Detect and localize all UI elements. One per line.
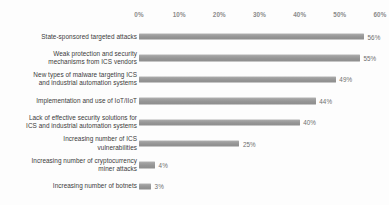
bar-track: 40%: [139, 119, 316, 126]
bar-value-label: 49%: [339, 76, 352, 83]
bar-row: Increasing number of cryptocurrency mine…: [0, 154, 389, 175]
bar-row: Increasing number of botnets3%: [0, 176, 389, 197]
bar-value-label: 40%: [303, 119, 316, 126]
bar-value-label: 4%: [159, 162, 168, 169]
bar-row: New types of malware targeting ICS and i…: [0, 69, 389, 90]
bar: [139, 98, 316, 104]
bar-track: 44%: [139, 97, 332, 104]
category-label: Increasing number of ICS vulnerabilities: [4, 135, 137, 151]
bar-row: Lack of effective security solutions for…: [0, 112, 389, 133]
x-axis-tick-30: 30%: [253, 11, 266, 18]
bar: [139, 140, 239, 146]
bar: [139, 33, 364, 39]
bar-row: Implementation and use of IoT/IIoT44%: [0, 90, 389, 111]
bar: [139, 76, 336, 82]
bar-track: 25%: [139, 140, 256, 147]
bar-row: Weak protection and security mechanisms …: [0, 47, 389, 68]
bar-rows: State-sponsored targeted attacks56%Weak …: [0, 26, 389, 197]
bar: [139, 183, 151, 189]
x-axis-tick-40: 40%: [293, 11, 306, 18]
category-label: Increasing number of cryptocurrency mine…: [4, 157, 137, 173]
category-label: Weak protection and security mechanisms …: [4, 50, 137, 66]
category-label: Lack of effective security solutions for…: [4, 114, 137, 130]
bar-track: 4%: [139, 162, 168, 169]
bar-value-label: 44%: [319, 97, 332, 104]
category-label: Increasing number of botnets: [4, 182, 137, 190]
x-axis-tick-0: 0%: [134, 11, 143, 18]
x-axis-tick-60: 60%: [373, 11, 386, 18]
bar-value-label: 25%: [243, 140, 256, 147]
bar-track: 49%: [139, 76, 352, 83]
x-axis-tick-20: 20%: [213, 11, 226, 18]
bar: [139, 119, 300, 125]
x-axis-tick-50: 50%: [333, 11, 346, 18]
bar-track: 55%: [139, 55, 376, 62]
horizontal-bar-chart: 0%10%20%30%40%50%60% State-sponsored tar…: [0, 0, 389, 205]
bar-track: 56%: [139, 33, 380, 40]
category-label: State-sponsored targeted attacks: [4, 33, 137, 41]
bar-row: Increasing number of ICS vulnerabilities…: [0, 133, 389, 154]
category-label: Implementation and use of IoT/IIoT: [4, 97, 137, 105]
bar-row: State-sponsored targeted attacks56%: [0, 26, 389, 47]
x-axis-ticks: 0%10%20%30%40%50%60%: [0, 0, 389, 26]
bar-track: 3%: [139, 183, 164, 190]
category-label: New types of malware targeting ICS and i…: [4, 71, 137, 87]
bar-value-label: 55%: [363, 55, 376, 62]
x-axis-tick-10: 10%: [173, 11, 186, 18]
bar: [139, 55, 360, 61]
bar-value-label: 56%: [367, 33, 380, 40]
bar-value-label: 3%: [155, 183, 164, 190]
bar: [139, 162, 155, 168]
